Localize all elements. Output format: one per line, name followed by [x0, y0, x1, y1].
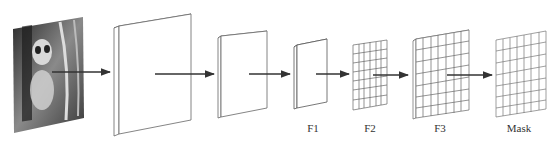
pipeline-diagram	[0, 0, 559, 151]
f2-label: F2	[364, 122, 376, 134]
f1-label: F1	[307, 122, 319, 134]
mask-grid	[496, 31, 546, 117]
input-image	[13, 17, 84, 133]
layer1-plane	[114, 14, 191, 136]
mask-label: Mask	[507, 122, 531, 134]
f3-label: F3	[434, 122, 446, 134]
